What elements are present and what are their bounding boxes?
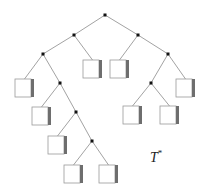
internal-node [91,140,94,143]
leaf-box [176,79,195,97]
leaf-box [48,136,67,154]
internal-node [59,82,62,85]
tree-edge [25,54,44,79]
tree-edge [74,15,105,35]
internal-node [137,34,140,37]
internal-node [73,34,76,37]
internal-node [104,14,107,17]
tree-edge [43,35,74,54]
tree-edge [74,35,93,60]
leaf-box [83,60,102,78]
tree-label-superscript: * [158,148,163,158]
tree-edge [92,141,109,165]
internal-node [42,53,45,56]
tree-internal-nodes [42,14,170,143]
internal-node [75,111,78,114]
leaf-box [123,106,142,124]
tree-edge [43,54,60,83]
leaf-box [15,79,34,97]
leaf-box [99,165,118,183]
tree-edge [168,54,186,79]
tree-label: T* [150,148,162,166]
tree-edge [42,83,61,107]
tree-edge [76,112,92,141]
leaf-box [110,60,129,78]
leaf-box [32,107,51,125]
tree-edge [138,35,168,54]
internal-node [150,82,153,85]
tree-edge [133,83,152,106]
tree-edge [120,35,139,60]
tree-edge [60,83,76,112]
tree-edge [151,54,168,83]
tree-label-text: T [150,150,158,165]
tree-edge [58,112,77,136]
tree-edge [105,15,138,35]
tree-diagram [0,0,205,192]
internal-node [167,53,170,56]
leaf-box [160,106,179,124]
tree-edge [151,83,170,106]
leaf-box [64,165,83,183]
tree-leaves [15,60,195,183]
tree-edge [74,141,93,165]
